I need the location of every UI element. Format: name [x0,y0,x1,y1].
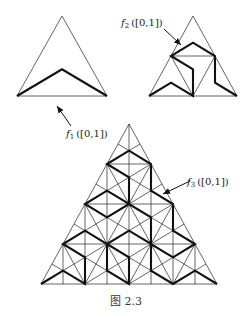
arrow-f1 [57,106,71,126]
panel-f1: f1([0,1]) [17,16,108,141]
figure-caption: 图 2.3 [110,295,142,308]
panel-f2: f2([0,1]) [120,16,237,96]
panel-f3: f3([0,1]) [41,124,229,284]
grid-line [17,16,62,96]
label-f3: f3([0,1]) [186,176,229,189]
curve-f1 [17,69,107,96]
triangle-grid-f1 [17,16,107,96]
label-f2: f2([0,1]) [120,17,163,30]
curve-f2 [149,43,237,96]
arrow-f3 [163,181,190,194]
figure-canvas: f1([0,1]) f2([0,1]) f3([0,1]) 图 2.3 [0,0,247,316]
arrow-f2 [164,29,181,45]
grid-line [193,56,215,96]
grid-line [62,16,107,96]
label-f1: f1([0,1]) [65,128,108,141]
